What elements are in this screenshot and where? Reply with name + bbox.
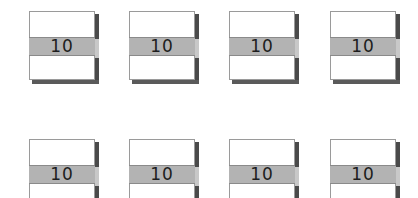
tile-bottom-shadow — [333, 80, 400, 84]
tile-band: 10 — [29, 37, 95, 56]
tile-band: 10 — [330, 37, 396, 56]
tile-3[interactable]: 10 — [229, 11, 295, 80]
tile-2[interactable]: 10 — [129, 11, 195, 80]
tile-side-band — [295, 39, 299, 58]
tile-label: 10 — [150, 166, 174, 183]
tile-label: 10 — [150, 38, 174, 55]
tile-side-band — [95, 167, 99, 186]
tile-label: 10 — [351, 38, 375, 55]
tile-side-band — [195, 39, 199, 58]
tile-band: 10 — [330, 165, 396, 184]
tile-4[interactable]: 10 — [330, 11, 396, 80]
tile-band: 10 — [229, 165, 295, 184]
tile-side-band — [295, 167, 299, 186]
tile-label: 10 — [50, 38, 74, 55]
tile-6[interactable]: 10 — [129, 139, 195, 198]
tile-bottom-shadow — [32, 80, 99, 84]
tile-7[interactable]: 10 — [229, 139, 295, 198]
tile-side-band — [95, 39, 99, 58]
tile-band: 10 — [129, 165, 195, 184]
tile-band: 10 — [229, 37, 295, 56]
tile-5[interactable]: 10 — [29, 139, 95, 198]
tile-8[interactable]: 10 — [330, 139, 396, 198]
tile-band: 10 — [129, 37, 195, 56]
tile-label: 10 — [50, 166, 74, 183]
tile-label: 10 — [351, 166, 375, 183]
tile-side-band — [396, 167, 400, 186]
tile-bottom-shadow — [232, 80, 299, 84]
tile-side-band — [396, 39, 400, 58]
tile-1[interactable]: 10 — [29, 11, 95, 80]
tile-label: 10 — [250, 166, 274, 183]
tile-side-band — [195, 167, 199, 186]
tile-bottom-shadow — [132, 80, 199, 84]
tile-label: 10 — [250, 38, 274, 55]
tile-band: 10 — [29, 165, 95, 184]
